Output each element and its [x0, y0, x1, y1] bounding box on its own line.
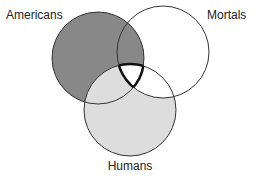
- mortals-label: Mortals: [207, 8, 246, 22]
- humans-label: Humans: [108, 159, 153, 173]
- venn-diagram: [0, 0, 256, 180]
- americans-label: Americans: [6, 8, 63, 22]
